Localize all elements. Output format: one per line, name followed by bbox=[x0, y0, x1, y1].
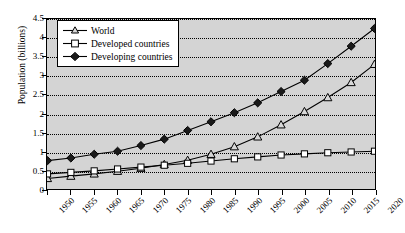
x-tick-mark bbox=[141, 190, 142, 195]
x-tick-label: 1970 bbox=[151, 196, 170, 215]
diamond-data-marker bbox=[300, 76, 308, 84]
x-tick-mark bbox=[258, 190, 259, 195]
legend-label: Developed countries bbox=[88, 39, 169, 49]
x-axis-tick-labels: 1950195519601965197019751980198519901995… bbox=[46, 196, 376, 232]
legend-label: World bbox=[88, 26, 115, 36]
legend-item-developing-countries: Developing countries bbox=[62, 50, 173, 63]
x-tick-mark bbox=[376, 190, 377, 195]
legend-item-world: World bbox=[62, 24, 173, 37]
square-data-marker bbox=[255, 154, 261, 160]
x-tick-mark bbox=[352, 190, 353, 195]
x-tick-label: 1955 bbox=[80, 196, 99, 215]
square-data-marker bbox=[348, 149, 354, 155]
x-tick-label: 1980 bbox=[198, 196, 217, 215]
square-data-marker bbox=[138, 164, 144, 170]
x-tick-label: 2005 bbox=[315, 196, 334, 215]
x-tick-label: 1995 bbox=[268, 196, 287, 215]
square-data-marker bbox=[231, 156, 237, 162]
diamond-data-marker bbox=[160, 135, 168, 143]
x-tick-mark bbox=[211, 190, 212, 195]
x-tick-mark bbox=[70, 190, 71, 195]
triangle-marker-icon bbox=[62, 25, 88, 36]
diamond-marker-icon bbox=[62, 51, 88, 62]
x-tick-label: 1965 bbox=[127, 196, 146, 215]
square-marker-icon bbox=[62, 38, 88, 49]
x-tick-label: 2010 bbox=[339, 196, 358, 215]
x-tick-mark bbox=[164, 190, 165, 195]
diamond-data-marker bbox=[230, 109, 238, 117]
x-tick-mark bbox=[235, 190, 236, 195]
square-data-marker bbox=[185, 160, 191, 166]
triangle-data-marker bbox=[347, 78, 355, 85]
square-data-marker bbox=[47, 171, 51, 177]
square-data-marker bbox=[114, 166, 120, 172]
x-tick-label: 1960 bbox=[104, 196, 123, 215]
x-tick-label: 1950 bbox=[57, 196, 76, 215]
diamond-data-marker bbox=[277, 87, 285, 95]
diamond-data-marker bbox=[254, 99, 262, 107]
diamond-data-marker bbox=[324, 60, 332, 68]
x-tick-mark bbox=[188, 190, 189, 195]
square-data-marker bbox=[325, 150, 331, 156]
triangle-data-marker bbox=[277, 121, 285, 128]
legend-item-developed-countries: Developed countries bbox=[62, 37, 173, 50]
triangle-data-marker bbox=[230, 143, 238, 150]
diamond-data-marker bbox=[137, 141, 145, 149]
x-tick-mark bbox=[47, 190, 48, 195]
x-tick-label: 1975 bbox=[174, 196, 193, 215]
x-tick-label: 1990 bbox=[245, 196, 264, 215]
square-data-marker bbox=[371, 148, 375, 154]
x-tick-label: 1985 bbox=[221, 196, 240, 215]
diamond-data-marker bbox=[47, 157, 52, 165]
triangle-data-marker bbox=[254, 133, 262, 140]
x-tick-mark bbox=[94, 190, 95, 195]
x-tick-label: 2020 bbox=[386, 196, 405, 215]
square-data-marker bbox=[68, 169, 74, 175]
triangle-data-marker bbox=[300, 107, 308, 114]
x-tick-label: 2015 bbox=[362, 196, 381, 215]
diamond-data-marker bbox=[67, 154, 75, 162]
square-data-marker bbox=[278, 152, 284, 158]
diamond-data-marker bbox=[207, 118, 215, 126]
x-tick-mark bbox=[282, 190, 283, 195]
triangle-data-marker bbox=[370, 60, 375, 67]
chart-legend: World Developed countries Developing cou… bbox=[57, 20, 179, 67]
diamond-data-marker bbox=[113, 147, 121, 155]
square-data-marker bbox=[208, 158, 214, 164]
x-tick-mark bbox=[305, 190, 306, 195]
x-tick-mark bbox=[329, 190, 330, 195]
diamond-data-marker bbox=[184, 126, 192, 134]
diamond-data-marker bbox=[90, 150, 98, 158]
legend-label: Developing countries bbox=[88, 52, 173, 62]
y-axis-tick-labels: 00.511.522.533.544.5 bbox=[12, 0, 44, 233]
x-tick-mark bbox=[117, 190, 118, 195]
triangle-data-marker bbox=[324, 93, 332, 100]
x-tick-label: 2000 bbox=[292, 196, 311, 215]
square-data-marker bbox=[161, 162, 167, 168]
square-data-marker bbox=[91, 168, 97, 174]
square-data-marker bbox=[301, 151, 307, 157]
